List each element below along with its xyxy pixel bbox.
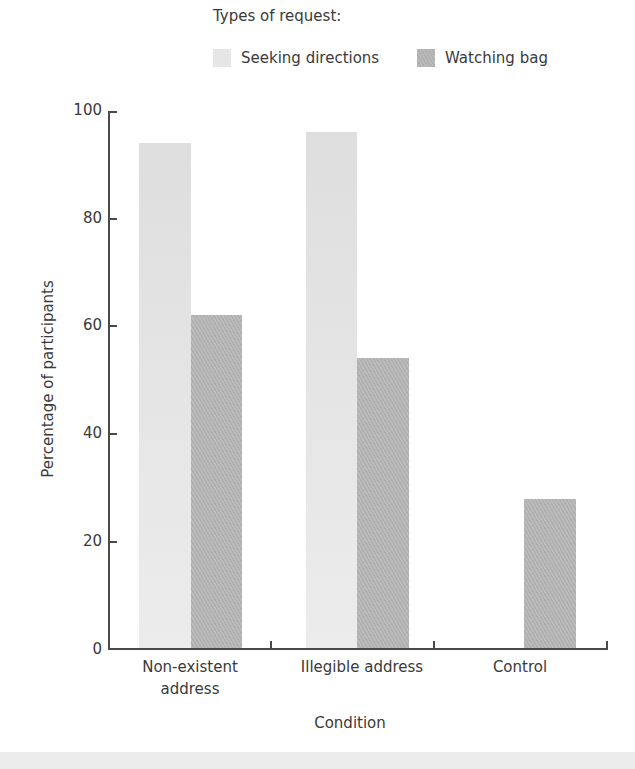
x-category-separator — [606, 641, 608, 649]
legend-item-watching-bag: Watching bag — [417, 49, 548, 67]
legend-swatch-seeking-directions — [213, 49, 231, 67]
x-axis-title: Condition — [200, 714, 500, 732]
category-line: address — [120, 678, 260, 700]
bar-illegible-watching-bag — [357, 358, 409, 649]
y-tick — [110, 541, 117, 543]
y-tick — [110, 111, 117, 113]
legend-label: Seeking directions — [241, 49, 379, 67]
bar-illegible-seeking-directions — [306, 132, 357, 649]
category-line: Non-existent — [120, 656, 260, 678]
bar-control-watching-bag — [524, 499, 576, 649]
x-category-separator — [433, 641, 435, 649]
y-tick-label: 100 — [62, 101, 102, 119]
x-category-separator — [270, 641, 272, 649]
y-axis-line — [108, 111, 110, 650]
bar-non-existent-seeking-directions — [139, 143, 191, 649]
y-tick-label: 20 — [62, 532, 102, 550]
y-axis-title: Percentage of participants — [39, 269, 57, 489]
legend-item-seeking-directions: Seeking directions — [213, 49, 379, 67]
y-tick-label: 80 — [62, 209, 102, 227]
y-tick-label: 0 — [62, 640, 102, 658]
x-category-label-non-existent: Non-existent address — [120, 656, 260, 700]
legend-swatch-watching-bag — [417, 49, 435, 67]
x-axis-line — [108, 648, 608, 650]
y-tick — [110, 325, 117, 327]
x-category-label-control: Control — [460, 656, 580, 678]
y-tick-label: 40 — [62, 424, 102, 442]
y-tick — [110, 433, 117, 435]
category-line: Control — [460, 656, 580, 678]
category-line: Illegible address — [272, 656, 452, 678]
legend-title: Types of request: — [213, 7, 341, 25]
y-tick — [110, 218, 117, 220]
bar-non-existent-watching-bag — [191, 315, 242, 649]
legend-label: Watching bag — [445, 49, 548, 67]
bottom-border-strip — [0, 752, 635, 769]
x-category-label-illegible: Illegible address — [272, 656, 452, 678]
y-tick-label: 60 — [62, 316, 102, 334]
